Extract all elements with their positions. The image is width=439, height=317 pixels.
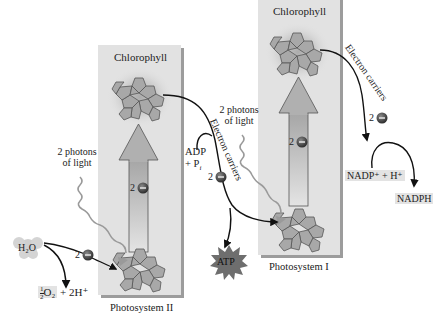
electron-token-water xyxy=(83,250,94,261)
electron-token-psii-arrow xyxy=(138,183,149,194)
electron-count-psii-arrow: 2 xyxy=(130,182,135,193)
electron-token-carrier-1 xyxy=(216,172,227,183)
photons-label-psii: 2 photons of light xyxy=(52,146,102,168)
photons-label-psi: 2 photons of light xyxy=(214,104,264,126)
electron-count-water: 2 xyxy=(75,249,80,260)
phosphate-subscript: i xyxy=(199,164,201,172)
electron-token-psi-arrow xyxy=(297,137,308,148)
nadph-label: NADPH xyxy=(395,193,433,204)
nadp-label: NADP⁺ + H⁺ xyxy=(345,170,405,181)
electron-count-carrier-1: 2 xyxy=(208,171,213,182)
adp-label: ADP + Pi xyxy=(185,146,206,172)
water-label: H₂O xyxy=(18,242,36,253)
oxygen-highlight: 12O₂ xyxy=(38,286,57,298)
photosystem-ii-panel xyxy=(98,45,184,298)
photons-psi-line1: 2 photons xyxy=(214,104,264,115)
electron-token-carrier-2 xyxy=(377,113,388,124)
oxygen-products-label: 12O₂ + 2H⁺ xyxy=(38,286,88,301)
electron-count-psi-arrow: 2 xyxy=(289,136,294,147)
nadp-text: NADP⁺ + H⁺ xyxy=(345,170,405,181)
photosystem-i-panel xyxy=(258,0,343,258)
chlorophyll-label-psi: Chlorophyll xyxy=(273,5,326,17)
atp-label: ATP xyxy=(217,256,235,267)
light-reactions-diagram: Chlorophyll Chlorophyll Photosystem II P… xyxy=(0,0,439,317)
photons-psii-line1: 2 photons xyxy=(52,146,102,157)
hydrogen-ions: + 2H⁺ xyxy=(60,286,88,298)
water-to-oxygen-arrow xyxy=(44,245,66,287)
atp-branch-arrow xyxy=(225,208,231,247)
photons-psii-line2: of light xyxy=(52,157,102,168)
photosystem-ii-label: Photosystem II xyxy=(110,302,173,314)
adp-line2: + P xyxy=(185,158,199,169)
adp-line1: ADP xyxy=(185,146,206,158)
nadph-text: NADPH xyxy=(395,193,433,204)
chlorophyll-label-psii: Chlorophyll xyxy=(114,51,167,63)
photosystem-i-label: Photosystem I xyxy=(269,261,329,273)
electron-count-carrier-2: 2 xyxy=(369,112,374,123)
oxygen-formula: O₂ xyxy=(44,286,56,298)
